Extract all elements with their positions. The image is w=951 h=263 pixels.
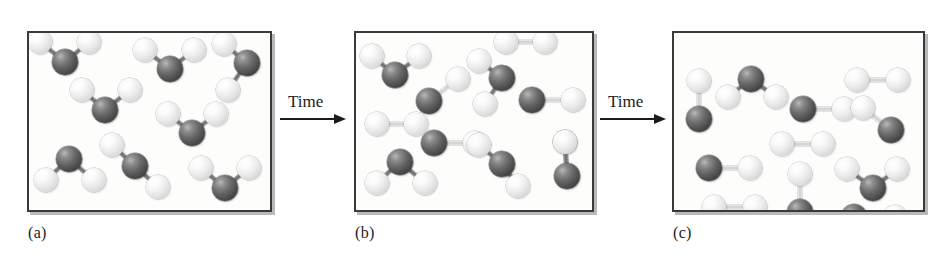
atom-light <box>506 174 530 198</box>
atom-dark <box>696 155 722 181</box>
atom-dark <box>416 88 442 114</box>
atom-light <box>561 88 585 112</box>
atom-dark <box>179 120 205 146</box>
atom-light <box>851 96 875 120</box>
atom-light <box>886 68 910 92</box>
atom-light <box>473 92 497 116</box>
atom-light <box>28 31 52 54</box>
atom-light <box>204 102 228 126</box>
atom-dark <box>787 199 813 212</box>
atom-light <box>360 44 384 68</box>
atom-light <box>82 168 106 192</box>
atom-light <box>743 195 767 212</box>
atom-dark <box>387 149 413 175</box>
atom-light <box>533 31 557 54</box>
panel-label-c: (c) <box>673 224 692 242</box>
arrow-1-shaft-icon <box>280 114 346 126</box>
molecule-layer-c <box>674 33 923 210</box>
arrow-2-shaft-icon <box>600 114 666 126</box>
panel-label-b: (b) <box>355 224 375 242</box>
atom-dark <box>554 163 580 189</box>
atom-light <box>70 78 94 102</box>
arrow-2: Time <box>600 92 666 126</box>
molecule-layer-a <box>29 33 270 210</box>
atom-light <box>156 102 180 126</box>
atom-light <box>413 171 437 195</box>
atom-light <box>883 205 907 212</box>
atom-light <box>212 32 236 56</box>
atom-light <box>237 156 261 180</box>
atom-dark <box>56 146 82 172</box>
arrow-1-label: Time <box>288 92 323 112</box>
atom-dark <box>52 49 78 75</box>
atom-dark <box>489 65 515 91</box>
panel-label-a: (a) <box>28 224 47 242</box>
atom-light <box>216 78 240 102</box>
atom-light <box>716 85 740 109</box>
atom-light <box>446 67 470 91</box>
atom-light <box>702 195 726 212</box>
atom-light <box>845 68 869 92</box>
atom-dark <box>841 204 867 212</box>
panel-a <box>27 31 272 212</box>
atom-light <box>764 85 788 109</box>
figure-canvas: (a)(b)(c)TimeTime <box>0 0 951 263</box>
atom-light <box>34 168 58 192</box>
atom-light <box>77 31 101 54</box>
atom-light <box>770 132 794 156</box>
atom-light <box>365 171 389 195</box>
atom-light <box>407 44 431 68</box>
atom-dark <box>738 66 764 92</box>
atom-dark <box>92 97 118 123</box>
atom-light <box>811 132 835 156</box>
atom-light <box>118 78 142 102</box>
panel-c <box>672 31 925 212</box>
atom-light <box>835 157 859 181</box>
atom-dark <box>382 62 408 88</box>
atom-dark <box>421 130 447 156</box>
molecule-layer-b <box>356 33 592 210</box>
panel-b <box>354 31 594 212</box>
atom-light <box>885 157 909 181</box>
atom-light <box>687 69 711 93</box>
atom-light <box>146 175 170 199</box>
atom-light <box>467 49 491 73</box>
atom-dark <box>878 117 904 143</box>
atom-dark <box>234 50 260 76</box>
atom-dark <box>122 153 148 179</box>
atom-dark <box>519 87 545 113</box>
atom-light <box>100 133 124 157</box>
atom-light <box>189 156 213 180</box>
atom-light <box>553 130 577 154</box>
atom-dark <box>212 175 238 201</box>
atom-light <box>788 162 812 186</box>
atom-dark <box>686 106 712 132</box>
arrow-1: Time <box>280 92 346 126</box>
atom-dark <box>157 56 183 82</box>
atom-light <box>467 133 491 157</box>
atom-dark <box>489 151 515 177</box>
atom-dark <box>860 175 886 201</box>
atom-light <box>365 112 389 136</box>
atom-dark <box>790 96 816 122</box>
atom-light <box>133 38 157 62</box>
atom-light <box>738 156 762 180</box>
atom-light <box>182 38 206 62</box>
atom-light <box>494 31 518 54</box>
arrow-2-label: Time <box>608 92 643 112</box>
